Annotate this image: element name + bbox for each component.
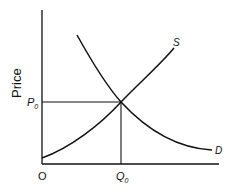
demand-curve — [77, 35, 212, 150]
demand-label: D — [215, 145, 222, 156]
y-axis-label: Price — [9, 68, 24, 98]
origin-label: O — [38, 170, 47, 182]
price-equilibrium-label: P0 — [27, 96, 38, 110]
quantity-equilibrium-label: Q0 — [116, 170, 129, 184]
supply-curve — [42, 48, 174, 158]
supply-demand-diagram: Price P0 O Q0 S D — [0, 0, 234, 191]
supply-label: S — [173, 37, 180, 48]
